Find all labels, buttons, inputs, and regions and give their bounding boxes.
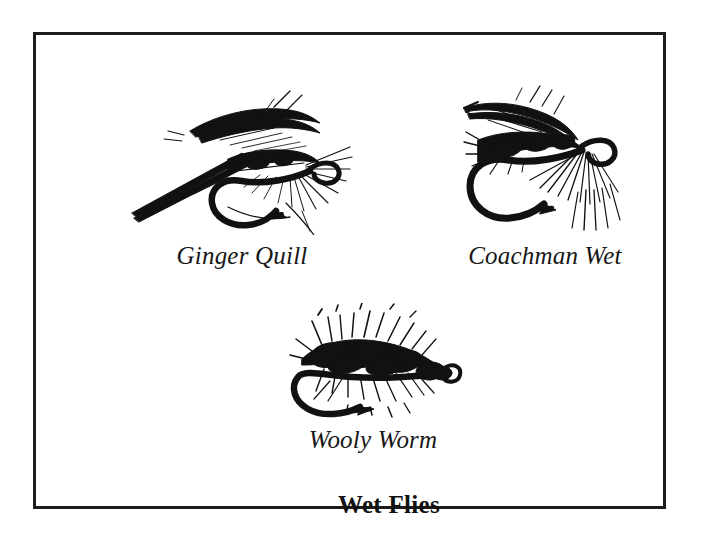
caption-wooly-worm: Wooly Worm xyxy=(262,427,484,453)
figure-coachman-wet xyxy=(454,80,644,235)
plate-border: Ginger Quill xyxy=(33,32,666,509)
caption-coachman-wet: Coachman Wet xyxy=(434,243,656,269)
wooly-worm-fly-icon xyxy=(284,303,464,423)
illustration-page: Ginger Quill xyxy=(0,0,707,547)
caption-ginger-quill: Ginger Quill xyxy=(128,243,356,269)
coachman-wet-fly-icon xyxy=(454,80,644,235)
plate-title: Wet Flies xyxy=(209,491,569,519)
figure-wooly-worm xyxy=(284,303,464,423)
ginger-quill-fly-icon xyxy=(124,85,359,235)
figure-ginger-quill xyxy=(124,85,359,235)
